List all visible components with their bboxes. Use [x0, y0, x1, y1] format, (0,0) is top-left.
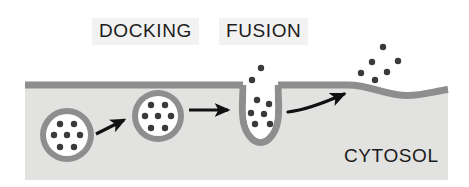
vesicle-free: [40, 108, 94, 162]
released-cargo-cluster: [358, 44, 401, 83]
fusion-pore: [246, 65, 275, 139]
compartment-label-cytosol: CYTOSOL: [344, 146, 439, 166]
stage-label-fusion: FUSION: [219, 18, 308, 45]
exocytosis-diagram: DOCKING FUSION CYTOSOL: [0, 0, 469, 187]
vesicle-docked: [132, 90, 184, 142]
stage-label-docking: DOCKING: [92, 18, 199, 45]
fusion-pore-escaping-cargo: [249, 65, 264, 83]
